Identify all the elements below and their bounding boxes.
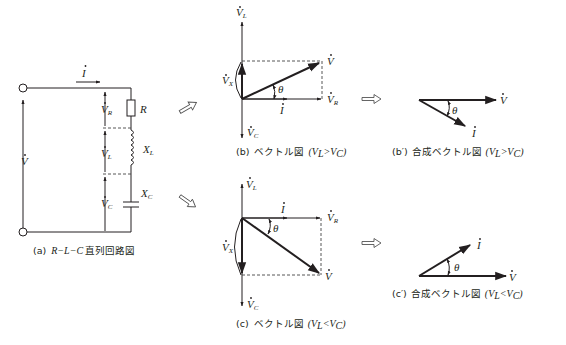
- svg-text:VC: VC: [247, 298, 259, 312]
- svg-text:VR: VR: [327, 211, 339, 225]
- v-vector: [242, 218, 319, 273]
- svg-text:VL: VL: [236, 6, 247, 20]
- caption-a: (a)R−L−C直列回路図: [33, 245, 135, 256]
- i-vector: [419, 100, 465, 126]
- svg-text:V: V: [509, 271, 517, 283]
- caption-b-prime: (b′)合成ベクトル図(VL>VC): [392, 146, 524, 159]
- svg-text:V: V: [327, 55, 335, 67]
- hollow-arrow-right-icon: [362, 239, 381, 248]
- terminal-top: [19, 84, 27, 92]
- svg-text:VX: VX: [222, 74, 234, 88]
- label-resistor: R: [139, 103, 147, 115]
- caption-b: (b)ベクトル図(VL>VC): [236, 146, 347, 159]
- svg-text:VC: VC: [247, 126, 259, 140]
- svg-text:θ: θ: [278, 83, 284, 95]
- svg-text:VC: VC: [101, 197, 113, 211]
- hollow-arrow-down-right-icon: [177, 192, 198, 210]
- hollow-arrow-right-icon: [362, 95, 381, 104]
- terminal-bottom: [19, 228, 27, 236]
- inductor-symbol: [131, 130, 134, 165]
- svg-text:I: I: [476, 239, 482, 251]
- hollow-arrow-up-right-icon: [178, 99, 199, 116]
- panel-c-vector-diagram: VL VC VX V VR I θ (c)ベクトル図(VL<VC): [222, 177, 346, 331]
- svg-text:I: I: [471, 127, 477, 139]
- svg-text:XC: XC: [140, 187, 153, 201]
- panel-b-vector-diagram: VL VC VX V VR I θ (b)ベクトル図(VL>VC): [222, 6, 347, 159]
- svg-text:VR: VR: [101, 103, 113, 117]
- label-source-voltage: V: [21, 155, 29, 167]
- svg-text:VL: VL: [101, 147, 112, 161]
- svg-text:I: I: [279, 104, 285, 116]
- label-current: I: [81, 67, 87, 79]
- svg-text:XL: XL: [142, 143, 154, 157]
- panel-c-prime-composite: θ V I (c′)合成ベクトル図(VL<VC): [392, 238, 523, 301]
- svg-text:VL: VL: [246, 178, 257, 192]
- panel-b-prime-composite: θ V I (b′)合成ベクトル図(VL>VC): [392, 93, 524, 159]
- rlc-figure: I V VR VL VC R XL XC (a)R−L−C直列回路図: [0, 0, 566, 345]
- svg-text:VR: VR: [327, 93, 339, 107]
- caption-c-prime: (c′)合成ベクトル図(VL<VC): [392, 288, 523, 301]
- panel-a-circuit: I V VR VL VC R XL XC (a)R−L−C直列回路図: [19, 65, 154, 256]
- resistor-symbol: [127, 100, 135, 116]
- svg-text:θ: θ: [454, 261, 460, 273]
- svg-text:VX: VX: [222, 241, 234, 255]
- svg-text:θ: θ: [273, 222, 279, 234]
- caption-c: (c)ベクトル図(VL<VC): [236, 318, 346, 331]
- svg-text:V: V: [500, 94, 508, 106]
- svg-text:V: V: [325, 270, 333, 282]
- i-vector: [419, 245, 470, 276]
- svg-text:I: I: [280, 203, 286, 215]
- svg-text:θ: θ: [452, 104, 458, 116]
